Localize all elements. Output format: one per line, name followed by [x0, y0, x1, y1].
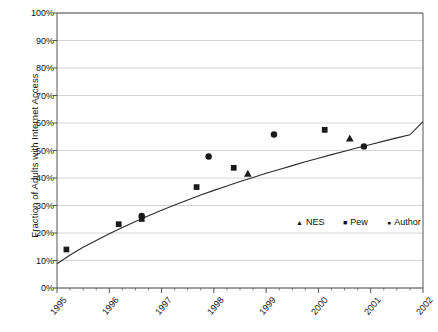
legend-item-nes: ▲NES — [296, 217, 324, 227]
data-point-author — [271, 131, 277, 137]
circle-marker-icon: ● — [387, 219, 391, 226]
chart-container: Fraction of Adults with Internet Access … — [0, 0, 438, 332]
data-point-pew — [322, 127, 328, 133]
data-point-nes — [346, 135, 354, 142]
data-point-pew — [116, 221, 122, 227]
fitted-trend-curve — [57, 122, 423, 264]
legend-item-author: ●Author — [387, 217, 421, 227]
data-point-author — [361, 143, 367, 149]
data-point-nes — [244, 170, 252, 177]
square-marker-icon: ■ — [343, 219, 347, 226]
data-point-author — [205, 153, 211, 159]
legend-label: Author — [394, 217, 421, 227]
legend-label: Pew — [350, 217, 368, 227]
data-point-author — [138, 213, 144, 219]
legend-item-pew: ■Pew — [343, 217, 368, 227]
data-point-pew — [231, 165, 237, 171]
data-point-pew — [64, 247, 70, 253]
legend-label: NES — [306, 217, 325, 227]
plot-area — [0, 0, 438, 332]
triangle-marker-icon: ▲ — [296, 219, 303, 226]
data-point-pew — [194, 184, 200, 190]
